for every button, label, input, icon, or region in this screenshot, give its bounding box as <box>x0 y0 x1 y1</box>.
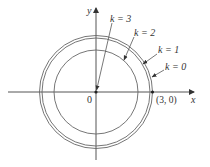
label-k3: k = 3 <box>110 13 131 24</box>
y-axis-label: y <box>86 5 92 16</box>
origin-point <box>94 90 97 93</box>
point-3-0 <box>151 90 154 93</box>
level-curves-diagram: y x 0 (3, 0) k = 3 k = 2 k = 1 k = 0 <box>0 0 210 167</box>
label-k2: k = 2 <box>134 27 155 38</box>
point-label: (3, 0) <box>156 95 177 106</box>
leader-k3 <box>97 23 112 90</box>
x-axis-label: x <box>190 94 196 105</box>
leader-k1 <box>143 54 157 64</box>
leader-k0 <box>152 70 164 77</box>
label-k0: k = 0 <box>165 61 186 72</box>
origin-label: 0 <box>87 94 92 105</box>
label-k1: k = 1 <box>158 44 179 55</box>
